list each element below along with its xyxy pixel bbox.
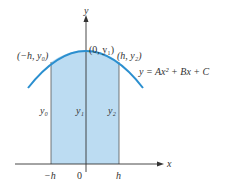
tick-neg-h: −h bbox=[44, 170, 56, 181]
tick-zero: 0 bbox=[77, 170, 82, 181]
point-label-center: (0, y₁) bbox=[89, 44, 114, 56]
x-axis-arrow-icon bbox=[157, 162, 164, 167]
ordinate-label-y0: y₀ bbox=[39, 105, 48, 116]
ordinate-label-y1: y₁ bbox=[75, 105, 84, 116]
x-axis-label: x bbox=[166, 158, 172, 169]
point-label-left: (−h, y₀) bbox=[17, 50, 49, 62]
ordinate-label-y2: y₂ bbox=[107, 105, 116, 116]
equation-label: y = Ax² + Bx + C bbox=[138, 66, 210, 77]
tick-h: h bbox=[116, 170, 121, 181]
parabola-simpson-diagram: y x −h 0 h (−h, y₀) (0, y₁) (h, y₂) y = … bbox=[0, 0, 232, 184]
y-axis-label: y bbox=[83, 5, 89, 16]
y-axis-arrow-icon bbox=[84, 15, 89, 22]
point-label-right: (h, y₂) bbox=[117, 50, 142, 62]
